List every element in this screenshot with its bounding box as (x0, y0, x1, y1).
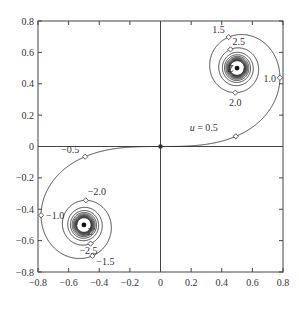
x-tick-label: −0.6 (60, 277, 78, 288)
x-tick-label: 0 (158, 277, 163, 288)
u-label: 2.0 (229, 97, 242, 108)
diamond-marker-icon (83, 198, 88, 203)
y-tick-label: 0.2 (22, 110, 35, 121)
diamond-marker-icon (277, 75, 282, 80)
attractor-label: Z (228, 63, 234, 74)
x-tick-label: 0.8 (277, 277, 290, 288)
u-label: u = 0.5 (190, 122, 218, 133)
u-label: 1.5 (212, 24, 225, 35)
diamond-marker-icon (83, 154, 88, 159)
x-tick-label: −0.8 (29, 277, 47, 288)
y-tick-label: −0.6 (16, 235, 34, 246)
attractor-label: Z' (87, 226, 96, 237)
spiral-branch (41, 147, 160, 259)
attractor-dot (82, 223, 87, 228)
diamond-marker-icon (38, 213, 43, 218)
u-label: −2.0 (88, 186, 106, 197)
diamond-marker-icon (228, 47, 233, 52)
u-label: −1.0 (46, 210, 64, 221)
u-label: 1.0 (263, 73, 276, 84)
u-label: 2.5 (232, 36, 245, 47)
origin-dot (158, 144, 162, 148)
cornu-spiral-chart: −0.8−0.6−0.4−0.200.20.40.60.80.80.60.40.… (0, 0, 299, 309)
x-tick-label: −0.2 (121, 277, 139, 288)
spiral-branch (161, 35, 280, 147)
u-label: −2.5 (79, 245, 97, 256)
diamond-marker-icon (226, 35, 231, 40)
y-tick-label: 0.4 (22, 78, 35, 89)
y-tick-label: 0.8 (22, 16, 35, 27)
y-tick-label: −0.4 (16, 204, 34, 215)
u-label: −1.5 (96, 256, 114, 267)
x-tick-label: 0.2 (185, 277, 198, 288)
y-tick-label: −0.2 (16, 172, 34, 183)
y-tick-label: 0.6 (22, 47, 35, 58)
x-tick-label: 0.6 (246, 277, 259, 288)
x-tick-label: 0.4 (216, 277, 229, 288)
diamond-marker-icon (233, 90, 238, 95)
y-tick-label: −0.8 (16, 267, 34, 278)
u-label: −0.5 (61, 144, 79, 155)
diamond-marker-icon (233, 134, 238, 139)
x-tick-label: −0.4 (90, 277, 108, 288)
y-tick-label: 0 (29, 141, 34, 152)
attractor-dot (235, 66, 240, 71)
